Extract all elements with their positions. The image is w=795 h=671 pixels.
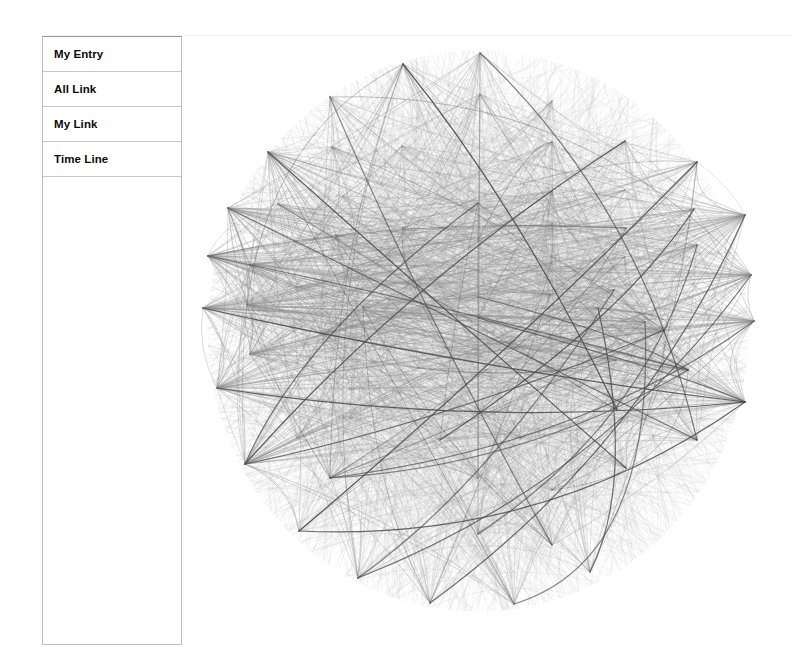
sidebar-panel: My EntryAll LinkMy LinkTime Line bbox=[42, 36, 182, 645]
sidebar-nav-list: My EntryAll LinkMy LinkTime Line bbox=[43, 37, 181, 177]
sidebar-item-my-entry[interactable]: My Entry bbox=[43, 37, 181, 72]
graph-panel[interactable] bbox=[183, 36, 795, 671]
app-root: My EntryAll LinkMy LinkTime Line bbox=[0, 0, 795, 671]
sidebar-item-time-line[interactable]: Time Line bbox=[43, 142, 181, 177]
network-graph[interactable] bbox=[183, 36, 795, 671]
sidebar-item-all-link[interactable]: All Link bbox=[43, 72, 181, 107]
sidebar-item-my-link[interactable]: My Link bbox=[43, 107, 181, 142]
